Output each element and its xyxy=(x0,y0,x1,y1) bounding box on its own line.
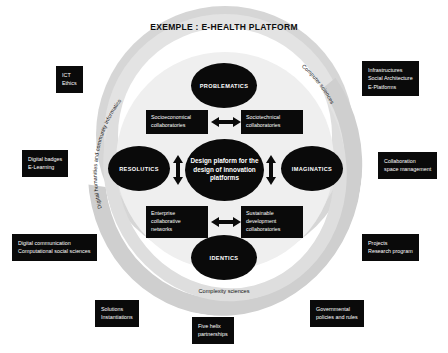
outer-box-five-helix-line-1: Five helix xyxy=(198,322,228,330)
outer-box-digital-communication: Digital communication Computational soci… xyxy=(12,234,97,261)
outer-box-ict-ethics-line-1: ICT xyxy=(62,71,77,79)
outer-box-five-helix: Five helix partnerships xyxy=(192,317,234,344)
outer-box-collaboration-space-line-2: space management xyxy=(384,165,431,173)
outer-box-governmental-line-1: Governmental xyxy=(316,305,358,313)
node-resolutics-label: RESOLUTICS xyxy=(119,166,159,172)
diagram-canvas: EXEMPLE : E-HEALTH PLATFORM Digital huma… xyxy=(0,0,448,353)
outer-box-infrastructures: Infrastructures Social Architecture E-Pl… xyxy=(362,61,419,96)
inner-box-sociotechnical: Sociotechnical collaboratories xyxy=(241,110,303,134)
node-resolutics: RESOLUTICS xyxy=(108,146,170,191)
arrow-vertical-left xyxy=(172,155,184,185)
outer-box-projects: Projects Research program xyxy=(362,234,419,261)
node-problematics: PROBLEMATICS xyxy=(191,63,257,108)
arc-label-right-text: Computer sciences xyxy=(301,63,336,105)
node-identics-label: IDENTICS xyxy=(210,255,239,261)
outer-box-infrastructures-line-3: E-Platforms xyxy=(368,83,413,91)
outer-box-infrastructures-line-1: Infrastructures xyxy=(368,66,413,74)
inner-box-sustainable-development: Sustainable development collaboratories xyxy=(241,206,303,238)
outer-box-digital-badges-line-2: E-Learning xyxy=(28,163,62,171)
outer-box-collaboration-space-line-1: Collaboration xyxy=(384,157,431,165)
outer-box-ict-ethics-line-2: Ethics xyxy=(62,79,77,87)
inner-box-sustainable-development-label: Sustainable development collaboratories xyxy=(246,210,280,232)
outer-box-digital-badges-line-1: Digital badges xyxy=(28,155,62,163)
outer-box-digital-badges: Digital badges E-Learning xyxy=(22,150,68,177)
core-circle: Design plaform for the design of innovat… xyxy=(185,139,264,201)
inner-box-socioeconomical-label: Socioeconomical collaboratories xyxy=(151,114,191,128)
inner-box-enterprise-networks-label: Enterprise collaborative networks xyxy=(151,210,181,232)
arc-label-bottom: Complexity sciences xyxy=(0,288,448,294)
outer-box-ict-ethics: ICT Ethics xyxy=(56,66,83,93)
outer-box-digital-communication-line-2: Computational social sciences xyxy=(18,247,91,255)
outer-box-solutions-line-2: Instantiations xyxy=(101,313,133,321)
inner-box-sociotechnical-label: Sociotechnical collaboratories xyxy=(246,114,280,128)
outer-box-digital-communication-line-1: Digital communication xyxy=(18,239,91,247)
outer-box-five-helix-line-2: partnerships xyxy=(198,330,228,338)
inner-box-enterprise-networks: Enterprise collaborative networks xyxy=(146,206,208,238)
core-circle-label: Design plaform for the design of innovat… xyxy=(188,157,261,183)
arrow-horizontal-bottom xyxy=(211,216,241,228)
node-imaginatics: IMAGINATICS xyxy=(281,146,343,191)
node-problematics-label: PROBLEMATICS xyxy=(200,83,249,89)
inner-box-socioeconomical: Socioeconomical collaboratories xyxy=(146,110,208,134)
outer-box-solutions: Solutions Instantiations xyxy=(95,300,139,327)
node-imaginatics-label: IMAGINATICS xyxy=(292,166,332,172)
outer-box-projects-line-2: Research program xyxy=(368,247,413,255)
node-identics: IDENTICS xyxy=(191,235,257,280)
outer-box-solutions-line-1: Solutions xyxy=(101,305,133,313)
arrow-horizontal-top xyxy=(211,116,241,128)
outer-box-infrastructures-line-2: Social Architecture xyxy=(368,74,413,82)
outer-box-governmental: Governmental policies and rules xyxy=(310,300,364,327)
svg-text:Computer sciences: Computer sciences xyxy=(301,63,336,105)
outer-box-collaboration-space: Collaboration space management xyxy=(378,152,437,179)
outer-box-governmental-line-2: policies and rules xyxy=(316,313,358,321)
arrow-vertical-right xyxy=(265,155,277,185)
outer-box-projects-line-1: Projects xyxy=(368,239,413,247)
